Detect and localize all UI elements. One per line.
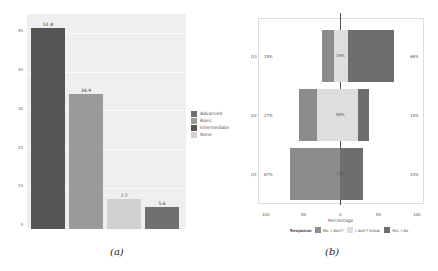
legend-label: Intermediate	[200, 125, 229, 130]
x-tick: 100	[262, 212, 270, 217]
right-pct: 66%	[410, 54, 419, 59]
y-tick: 0	[9, 222, 23, 227]
legend-swatch	[191, 125, 197, 131]
center-label: 0%	[337, 171, 343, 176]
likert-row-q2: 58%	[259, 89, 423, 141]
legend-swatch	[315, 227, 321, 233]
legend-swatch	[347, 227, 353, 233]
bar-label: 51.8	[33, 22, 63, 27]
category-label: Q3	[251, 54, 257, 59]
x-tick: 100	[413, 212, 421, 217]
legend-label: I don't know	[355, 228, 379, 233]
bar-label: 7.7	[109, 193, 139, 198]
bar-chart-panel: 51.8 34.9 7.7 5.6 50 40 30 20 10 0 Advan…	[0, 0, 230, 240]
likert-chart-panel: 19% 58% 0% Q3 15% 66% Q2 27% 15% Q1 67% …	[240, 0, 438, 240]
x-tick: 50	[376, 212, 381, 217]
legend-label: Yes, I do	[392, 228, 408, 233]
y-tick: 20	[9, 145, 23, 150]
bar-label: 5.6	[147, 201, 177, 206]
likert-plot-area: 19% 58% 0%	[258, 18, 424, 204]
bar-none	[107, 199, 141, 229]
y-tick: 40	[9, 67, 23, 72]
legend-swatch	[191, 111, 197, 117]
legend-label: None	[200, 132, 212, 137]
bar-basic	[69, 94, 103, 229]
center-label: 19%	[336, 53, 345, 58]
y-tick: 10	[9, 183, 23, 188]
bar-label: 34.9	[71, 88, 101, 93]
legend-swatch	[191, 118, 197, 124]
y-tick: 50	[9, 28, 23, 33]
y-tick: 30	[9, 106, 23, 111]
category-label: Q1	[251, 172, 257, 177]
legend-label: Advanced	[200, 111, 222, 116]
x-tick: 0	[339, 212, 342, 217]
x-tick: 50	[301, 212, 306, 217]
center-label: 58%	[336, 112, 345, 117]
likert-legend: Response No, I don't I don't know Yes, I…	[290, 227, 408, 233]
likert-row-q3: 19%	[259, 30, 423, 82]
legend-swatch	[191, 132, 197, 138]
legend-swatch	[384, 227, 390, 233]
x-axis-title: Percentage	[328, 218, 353, 223]
left-pct: 15%	[264, 54, 273, 59]
bar-chart-plot-area: 51.8 34.9 7.7 5.6	[27, 14, 186, 229]
legend-title: Response	[290, 228, 312, 233]
left-pct: 67%	[264, 172, 273, 177]
likert-row-q1: 0%	[259, 148, 423, 200]
right-pct: 15%	[410, 113, 419, 118]
legend-label: Basic	[200, 118, 212, 123]
bar-advanced	[145, 207, 179, 229]
legend-label: No, I don't	[323, 228, 344, 233]
category-label: Q2	[251, 113, 257, 118]
caption-a: (a)	[110, 246, 124, 257]
bar-intermediate	[31, 28, 65, 229]
left-pct: 27%	[264, 113, 273, 118]
right-pct: 33%	[410, 172, 419, 177]
caption-b: (b)	[325, 246, 339, 257]
bar-chart-legend: Advanced Basic Intermediate None	[191, 110, 229, 138]
